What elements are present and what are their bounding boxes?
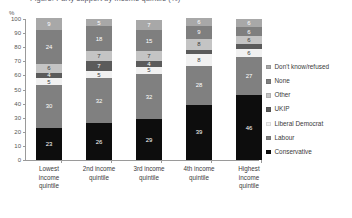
segment-value-label: 7 <box>147 22 150 28</box>
bar-2[interactable]: 2632577185 <box>86 19 112 160</box>
y-tick-label: 50 <box>5 87 21 93</box>
segment-value-label: 26 <box>96 139 103 145</box>
segment-labour[interactable]: 32 <box>86 78 112 123</box>
y-tick-label: 0 <box>5 157 21 163</box>
segment-ukip[interactable]: 4 <box>136 61 162 67</box>
segment-value-label: 5 <box>47 79 50 85</box>
segment-value-label: 24 <box>46 44 53 50</box>
segment-liberal-democrat[interactable]: 5 <box>136 67 162 74</box>
segment-labour[interactable]: 30 <box>36 85 62 127</box>
segment-ukip[interactable]: 7 <box>86 61 112 71</box>
segment-labour[interactable]: 28 <box>186 66 212 105</box>
segment-value-label: 32 <box>96 98 103 104</box>
segment-value-label: 6 <box>247 29 250 35</box>
legend-label: None <box>275 78 290 84</box>
segment-value-label: 9 <box>197 29 200 35</box>
legend-label: Other <box>275 92 291 98</box>
segment-don-t-know-refused[interactable]: 7 <box>136 20 162 30</box>
segment-none[interactable]: 6 <box>236 27 262 35</box>
segment-value-label: 5 <box>147 67 150 73</box>
legend-item-ukip[interactable]: UKIP <box>266 103 352 117</box>
chart-legend: Don't know/refusedNoneOtherUKIPLiberal D… <box>266 60 352 159</box>
y-tick-mark <box>23 47 26 48</box>
legend-swatch-icon <box>266 136 271 141</box>
bar-5[interactable]: 46276666 <box>236 19 262 160</box>
legend-swatch-icon <box>266 79 271 84</box>
segment-value-label: 9 <box>47 21 50 27</box>
legend-swatch-icon <box>266 150 271 155</box>
segment-labour[interactable]: 32 <box>136 74 162 119</box>
x-tick-mark <box>211 160 212 163</box>
segment-other[interactable]: 7 <box>136 51 162 61</box>
segment-value-label: 4 <box>147 61 150 67</box>
y-tick-label: 70 <box>5 58 21 64</box>
segment-liberal-democrat[interactable]: 8 <box>186 54 212 65</box>
legend-item-conservative[interactable]: Conservative <box>266 145 352 159</box>
segment-other[interactable]: 6 <box>236 36 262 44</box>
segment-labour[interactable]: 27 <box>236 57 262 95</box>
segment-don-t-know-refused[interactable]: 6 <box>236 19 262 27</box>
legend-item-labour[interactable]: Labour <box>266 131 352 145</box>
legend-label: Don't know/refused <box>275 64 330 70</box>
segment-value-label: 8 <box>197 57 200 63</box>
segment-other[interactable]: 6 <box>36 64 62 72</box>
stacked-bar-chart: Figure: Party support by income quintile… <box>0 0 352 218</box>
segment-liberal-democrat[interactable]: 5 <box>36 78 62 85</box>
segment-don-t-know-refused[interactable]: 5 <box>86 19 112 26</box>
segment-ukip[interactable]: 4 <box>36 73 62 79</box>
segment-value-label: 29 <box>146 137 153 143</box>
bar-1[interactable]: 2330546249 <box>36 19 62 160</box>
y-tick-label: 90 <box>5 30 21 36</box>
legend-item-don-t-know-refused[interactable]: Don't know/refused <box>266 60 352 74</box>
segment-ukip[interactable] <box>236 44 262 48</box>
segment-don-t-know-refused[interactable]: 9 <box>36 18 62 31</box>
segment-don-t-know-refused[interactable]: 6 <box>186 18 212 26</box>
y-axis-line <box>25 19 26 160</box>
segment-value-label: 23 <box>46 141 53 147</box>
segment-ukip[interactable] <box>186 50 212 54</box>
segment-other[interactable]: 8 <box>186 39 212 50</box>
segment-conservative[interactable]: 26 <box>86 123 112 160</box>
segment-liberal-democrat[interactable]: 6 <box>236 49 262 57</box>
legend-item-liberal-democrat[interactable]: Liberal Democrat <box>266 117 352 131</box>
legend-swatch-icon <box>266 93 271 98</box>
y-tick-mark <box>23 19 26 20</box>
x-axis-label-line: quintile <box>218 182 280 191</box>
segment-value-label: 5 <box>97 20 100 26</box>
segment-none[interactable]: 9 <box>186 26 212 39</box>
legend-label: Labour <box>275 135 295 141</box>
segment-value-label: 30 <box>46 103 53 109</box>
bar-3[interactable]: 2932547157 <box>136 19 162 160</box>
y-tick-mark <box>23 160 26 161</box>
segment-value-label: 18 <box>96 36 103 42</box>
legend-swatch-icon <box>266 122 271 127</box>
segment-value-label: 7 <box>147 53 150 59</box>
segment-conservative[interactable]: 39 <box>186 105 212 160</box>
segment-conservative[interactable]: 46 <box>236 95 262 160</box>
y-tick-mark <box>23 118 26 119</box>
segment-liberal-democrat[interactable]: 5 <box>86 71 112 78</box>
segment-other[interactable]: 7 <box>86 51 112 61</box>
x-axis-label-line: income <box>218 174 280 183</box>
y-tick-mark <box>23 61 26 62</box>
segment-none[interactable]: 18 <box>86 26 112 51</box>
x-tick-mark <box>111 160 112 163</box>
y-tick-mark <box>23 33 26 34</box>
legend-label: UKIP <box>275 106 290 112</box>
bar-4[interactable]: 39288896 <box>186 19 212 160</box>
segment-value-label: 5 <box>97 72 100 78</box>
segment-none[interactable]: 24 <box>36 30 62 64</box>
segment-value-label: 7 <box>97 53 100 59</box>
segment-value-label: 7 <box>97 63 100 69</box>
segment-conservative[interactable]: 29 <box>136 119 162 160</box>
legend-item-none[interactable]: None <box>266 74 352 88</box>
legend-label: Liberal Democrat <box>275 121 324 127</box>
segment-none[interactable]: 15 <box>136 30 162 51</box>
segment-value-label: 6 <box>247 37 250 43</box>
legend-item-other[interactable]: Other <box>266 88 352 102</box>
segment-value-label: 6 <box>247 50 250 56</box>
y-tick-mark <box>23 132 26 133</box>
segment-value-label: 6 <box>197 19 200 25</box>
x-tick-mark <box>261 160 262 163</box>
segment-conservative[interactable]: 23 <box>36 128 62 160</box>
